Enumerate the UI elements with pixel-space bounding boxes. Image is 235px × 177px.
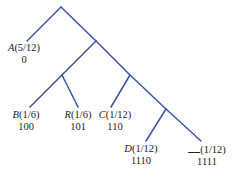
- leaf-code: 1111: [188, 156, 226, 168]
- blank-symbol: [188, 143, 200, 153]
- leaf-a: A(5/12) 0: [8, 42, 40, 66]
- leaf-blank: (1/12) 1111: [188, 143, 226, 168]
- leaf-code: 1110: [124, 155, 157, 167]
- leaf-prob: (1/6): [19, 109, 39, 120]
- leaf-symbol: C: [99, 109, 106, 120]
- leaf-prob: (1/12): [132, 143, 158, 154]
- leaf-symbol: D: [124, 143, 132, 154]
- leaf-prob: (1/12): [200, 144, 226, 155]
- edge-n4-blank: [166, 109, 201, 141]
- edge-n2-b: [30, 75, 62, 107]
- edge-root-a: [27, 7, 61, 41]
- edge-n3-n4: [130, 75, 166, 109]
- leaf-r: R(1/6) 101: [65, 109, 92, 133]
- leaf-prob: (5/12): [14, 42, 40, 53]
- edge-n4-d: [146, 109, 166, 141]
- leaf-d: D(1/12) 1110: [124, 143, 157, 167]
- leaf-code: 101: [65, 121, 92, 133]
- edge-n2-r: [62, 75, 78, 107]
- leaf-prob: (1/12): [106, 109, 132, 120]
- edge-root-n1: [61, 7, 96, 41]
- leaf-prob: (1/6): [71, 109, 91, 120]
- leaf-code: 0: [8, 54, 40, 66]
- leaf-c: C(1/12) 110: [99, 109, 132, 133]
- leaf-b: B(1/6) 100: [13, 109, 40, 133]
- leaf-code: 100: [13, 121, 40, 133]
- edge-n3-c: [111, 75, 130, 107]
- edge-n1-n3: [96, 41, 130, 75]
- edge-n1-n2: [62, 41, 96, 75]
- leaf-code: 110: [99, 121, 132, 133]
